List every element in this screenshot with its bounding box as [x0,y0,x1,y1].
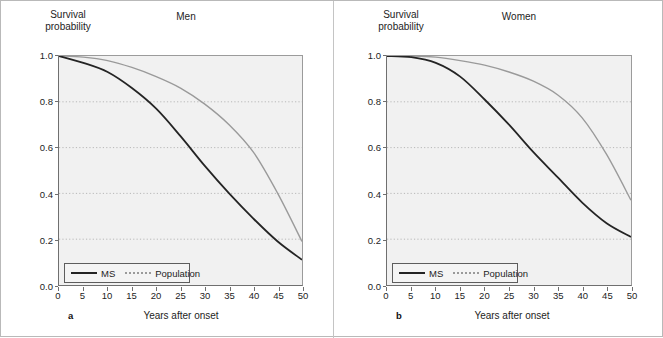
y-tick-mark [383,147,386,148]
x-tick-label: 50 [291,290,315,301]
population-curve [59,56,302,241]
x-tick-label: 45 [267,290,291,301]
x-tick-label: 5 [399,290,423,301]
legend-label-ms: MS [429,268,443,279]
y-tick-label: 0.8 [347,96,381,107]
x-tick-label: 35 [218,290,242,301]
population-curve [387,56,631,200]
legend-label-ms: MS [101,268,115,279]
x-tick-mark [484,287,485,291]
y-tick-label: 0.6 [347,142,381,153]
plot-area-men [58,55,303,286]
y-tick-label: 0.8 [19,96,53,107]
x-tick-label: 10 [95,290,119,301]
ms-line-swatch-icon [71,272,97,274]
panel-women: Survivalprobability Women 0.00.20.40.60.… [333,1,663,338]
x-axis-label: Years after onset [422,310,602,321]
y-tick-mark [55,101,58,102]
x-tick-mark [254,287,255,291]
ms-curve [59,56,302,260]
legend-label-population: Population [483,268,528,279]
panel-title: Men [121,11,251,22]
x-tick-label: 40 [242,290,266,301]
x-tick-label: 5 [71,290,95,301]
panel-men: Survivalprobability Men 0.00.20.40.60.81… [1,1,333,338]
x-tick-mark [107,287,108,291]
x-tick-mark [156,287,157,291]
x-tick-mark [583,287,584,291]
legend-label-population: Population [155,268,200,279]
plot-area-women [386,55,632,286]
legend-men[interactable]: MS Population [64,263,190,283]
y-tick-label: 0.2 [19,234,53,245]
legend-entry-population[interactable]: Population [453,268,528,279]
x-tick-mark [58,287,59,291]
x-tick-mark [460,287,461,291]
x-tick-label: 15 [120,290,144,301]
x-tick-mark [83,287,84,291]
x-tick-label: 20 [144,290,168,301]
x-tick-label: 30 [522,290,546,301]
x-axis-label: Years after onset [91,310,271,321]
y-tick-mark [383,194,386,195]
y-axis-label: Survivalprobability [23,9,113,33]
panel-letter: b [396,310,402,321]
population-line-swatch-icon [125,272,151,274]
x-tick-mark [230,287,231,291]
x-tick-label: 45 [595,290,619,301]
legend-entry-ms[interactable]: MS [71,268,115,279]
legend-entry-ms[interactable]: MS [399,268,443,279]
legend-entry-population[interactable]: Population [125,268,200,279]
panel-title: Women [454,11,584,22]
population-line-swatch-icon [453,272,479,274]
x-tick-mark [607,287,608,291]
x-tick-mark [279,287,280,291]
y-tick-mark [55,55,58,56]
y-tick-label: 0.6 [19,142,53,153]
x-tick-mark [205,287,206,291]
x-tick-mark [411,287,412,291]
x-tick-mark [181,287,182,291]
x-tick-label: 50 [620,290,644,301]
plot-svg-men [59,56,302,285]
y-tick-mark [55,240,58,241]
x-tick-label: 10 [423,290,447,301]
x-tick-label: 35 [546,290,570,301]
x-tick-mark [132,287,133,291]
plot-svg-women [387,56,631,285]
x-tick-mark [435,287,436,291]
y-tick-label: 1.0 [19,50,53,61]
y-tick-mark [55,194,58,195]
y-tick-mark [383,55,386,56]
x-tick-mark [386,287,387,291]
ms-line-swatch-icon [399,272,425,274]
x-tick-label: 40 [571,290,595,301]
y-tick-label: 0.4 [347,188,381,199]
x-tick-mark [303,287,304,291]
panel-letter: a [68,310,73,321]
y-tick-mark [383,101,386,102]
y-tick-label: 0.4 [19,188,53,199]
x-tick-label: 20 [472,290,496,301]
x-tick-mark [509,287,510,291]
x-tick-label: 25 [169,290,193,301]
y-axis-label: Survivalprobability [356,9,446,33]
x-tick-mark [534,287,535,291]
x-tick-mark [632,287,633,291]
gridlines-women [387,102,631,239]
legend-women[interactable]: MS Population [392,263,518,283]
y-tick-label: 0.2 [347,234,381,245]
x-tick-label: 30 [193,290,217,301]
x-tick-mark [558,287,559,291]
x-tick-label: 0 [46,290,70,301]
x-tick-label: 15 [448,290,472,301]
ms-curve [387,56,631,237]
y-tick-label: 1.0 [347,50,381,61]
x-tick-label: 0 [374,290,398,301]
x-tick-label: 25 [497,290,521,301]
y-tick-mark [383,240,386,241]
y-tick-mark [55,147,58,148]
